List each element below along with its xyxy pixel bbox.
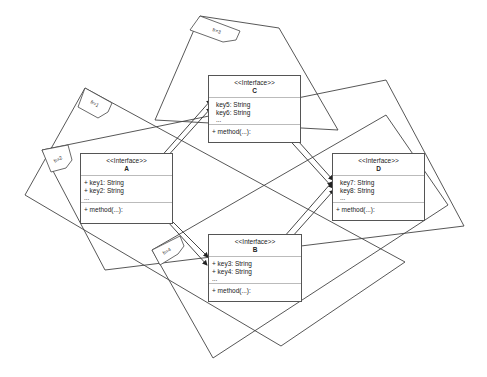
class-C-name: C (209, 87, 300, 95)
class-B-attributes: + key3: String + key4: String ... (209, 257, 301, 284)
class-B-attr-key4[interactable]: + key4: String (212, 268, 298, 276)
class-D-stereotype: <<Interface>> (333, 157, 424, 165)
class-C-ellipsis: ... (216, 116, 297, 124)
class-A-header: <<Interface>> A (81, 154, 172, 176)
class-A-method[interactable]: + method(...): (81, 203, 172, 217)
class-A-attr-key1[interactable]: + key1: String (84, 179, 169, 187)
class-A-attributes: + key1: String + key2: String ... (81, 176, 172, 203)
class-A-attr-key2[interactable]: + key2: String (84, 187, 169, 195)
class-C-attr-key6[interactable]: key6: String (216, 109, 297, 117)
class-A-stereotype: <<Interface>> (81, 157, 172, 165)
class-D-header: <<Interface>> D (333, 154, 424, 176)
class-B-method[interactable]: + method(...): (209, 284, 301, 298)
class-A-ellipsis: ... (84, 194, 169, 202)
class-D-name: D (333, 165, 424, 173)
class-B[interactable]: <<Interface>> B + key3: String + key4: S… (208, 234, 302, 302)
class-B-name: B (209, 246, 301, 254)
class-D-attributes: key7: String key8: String ... (333, 176, 424, 203)
class-C-attributes: key5: String key6: String ... (209, 98, 300, 125)
class-D-attr-key7[interactable]: key7: String (340, 179, 421, 187)
class-D[interactable]: <<Interface>> D key7: String key8: Strin… (332, 153, 425, 221)
class-B-ellipsis: ... (212, 275, 298, 283)
class-B-header: <<Interface>> B (209, 235, 301, 257)
class-C-header: <<Interface>> C (209, 76, 300, 98)
class-D-ellipsis: ... (340, 194, 421, 202)
class-C-stereotype: <<Interface>> (209, 79, 300, 87)
class-A-name: A (81, 165, 172, 173)
class-C[interactable]: <<Interface>> C key5: String key6: Strin… (208, 75, 301, 143)
class-C-method[interactable]: + method(...): (209, 125, 300, 139)
class-D-attr-key8[interactable]: key8: String (340, 187, 421, 195)
class-D-method[interactable]: + method(...): (333, 203, 424, 217)
class-B-stereotype: <<Interface>> (209, 238, 301, 246)
class-A[interactable]: <<Interface>> A + key1: String + key2: S… (80, 153, 173, 224)
class-B-attr-key3[interactable]: + key3: String (212, 260, 298, 268)
class-C-attr-key5[interactable]: key5: String (216, 101, 297, 109)
